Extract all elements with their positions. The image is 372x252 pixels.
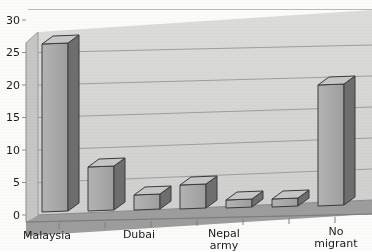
y-tick-label-10: 10	[0, 145, 20, 156]
bar-column-7	[318, 76, 355, 206]
y-axis-ticks	[22, 20, 26, 215]
x-tick-label-malaysia: Malaysia	[12, 230, 82, 242]
bar-column-1	[42, 35, 79, 212]
y-tick-label-25: 25	[0, 47, 20, 58]
plot-left-wall	[26, 32, 38, 222]
x-tick-label-dubai: Dubai	[112, 229, 166, 241]
x-tick-label-no-migrant: No migrant	[303, 226, 369, 250]
y-tick-label-0: 0	[0, 210, 20, 221]
y-tick-label-20: 20	[0, 80, 20, 91]
y-tick-label-15: 15	[0, 112, 20, 123]
bar-column-2	[88, 158, 125, 211]
y-tick-label-5: 5	[0, 177, 20, 188]
bar-column-4	[180, 176, 217, 209]
x-tick-label-nepal-army: Nepal army	[196, 228, 252, 252]
y-tick-label-30: 30	[0, 15, 20, 26]
